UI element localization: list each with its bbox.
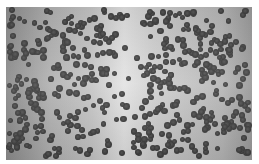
particle bbox=[163, 36, 169, 42]
particle bbox=[167, 44, 174, 51]
particle bbox=[40, 129, 45, 134]
particle bbox=[208, 47, 213, 52]
particle bbox=[138, 64, 144, 70]
particle bbox=[85, 75, 90, 80]
particle bbox=[33, 124, 39, 130]
particle bbox=[72, 28, 78, 34]
particle bbox=[36, 40, 43, 47]
particle bbox=[228, 42, 235, 49]
particle bbox=[199, 67, 205, 73]
particle bbox=[27, 144, 32, 149]
particle bbox=[23, 50, 30, 57]
particle bbox=[223, 34, 228, 39]
particle bbox=[39, 116, 45, 122]
particle bbox=[190, 122, 196, 128]
particle bbox=[227, 33, 233, 39]
particle bbox=[22, 126, 29, 133]
particle bbox=[98, 66, 104, 72]
particle bbox=[202, 74, 208, 80]
particle bbox=[89, 71, 95, 77]
particle bbox=[84, 36, 89, 41]
particle bbox=[38, 91, 44, 97]
particle bbox=[66, 16, 71, 21]
particle bbox=[90, 129, 97, 136]
particle bbox=[73, 90, 80, 97]
particle bbox=[105, 138, 110, 143]
particle bbox=[108, 13, 115, 20]
particle bbox=[34, 106, 41, 113]
particle bbox=[163, 52, 169, 58]
particle bbox=[19, 81, 25, 87]
particle bbox=[221, 59, 227, 65]
particle bbox=[91, 39, 97, 45]
particle bbox=[17, 130, 24, 137]
particle bbox=[203, 141, 209, 147]
particle bbox=[175, 36, 182, 43]
particle bbox=[11, 138, 18, 145]
particle bbox=[172, 102, 179, 109]
particle bbox=[78, 20, 84, 26]
particle bbox=[190, 99, 197, 106]
particle bbox=[25, 90, 32, 97]
particle bbox=[208, 117, 214, 123]
particle bbox=[26, 62, 31, 67]
particle bbox=[245, 100, 251, 106]
particle bbox=[14, 144, 21, 151]
particle bbox=[231, 113, 237, 119]
particle bbox=[122, 45, 128, 51]
particle bbox=[159, 131, 165, 137]
particle bbox=[172, 139, 177, 144]
particle bbox=[67, 113, 73, 119]
particle bbox=[75, 23, 81, 29]
particle bbox=[67, 122, 73, 128]
particle bbox=[155, 106, 161, 112]
particle bbox=[105, 141, 112, 148]
particle bbox=[13, 132, 19, 138]
particle bbox=[236, 147, 242, 153]
particle bbox=[241, 135, 247, 141]
particle bbox=[45, 151, 51, 157]
particle bbox=[217, 41, 224, 48]
particle bbox=[203, 61, 210, 68]
particle bbox=[157, 28, 164, 35]
particle bbox=[93, 77, 98, 82]
particle bbox=[74, 123, 80, 129]
particle bbox=[52, 91, 58, 97]
particle bbox=[13, 84, 19, 90]
particle bbox=[54, 109, 61, 116]
particle bbox=[95, 52, 101, 58]
particle bbox=[229, 97, 235, 103]
particle bbox=[17, 119, 22, 124]
particle bbox=[226, 18, 232, 24]
particle bbox=[168, 72, 174, 78]
particle bbox=[66, 89, 73, 96]
particle bbox=[148, 133, 154, 139]
particle bbox=[94, 25, 101, 32]
particle bbox=[76, 76, 81, 81]
particle bbox=[152, 19, 158, 25]
particle bbox=[203, 32, 208, 37]
particle bbox=[184, 10, 190, 16]
particle bbox=[198, 54, 204, 60]
particle bbox=[14, 86, 19, 91]
particle bbox=[82, 75, 89, 82]
particle bbox=[157, 151, 164, 158]
particle bbox=[163, 59, 169, 65]
particle bbox=[6, 144, 12, 150]
particle bbox=[40, 94, 47, 101]
particle bbox=[142, 22, 147, 27]
particle bbox=[103, 102, 110, 109]
particle bbox=[12, 51, 19, 58]
particle bbox=[170, 47, 175, 52]
particle bbox=[140, 142, 147, 149]
particle bbox=[124, 13, 129, 18]
particle bbox=[155, 77, 161, 83]
particle bbox=[63, 19, 68, 24]
particle bbox=[32, 82, 39, 89]
particle bbox=[78, 31, 83, 36]
particle bbox=[203, 52, 209, 58]
particle bbox=[174, 147, 180, 153]
particle bbox=[189, 143, 195, 149]
particle bbox=[243, 149, 250, 156]
particle bbox=[72, 82, 77, 87]
